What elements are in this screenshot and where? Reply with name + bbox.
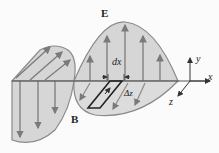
dz-label: Δz <box>124 89 133 98</box>
dx-label: dx <box>112 57 121 67</box>
axis-y-label: y <box>196 54 200 64</box>
wave-drawing <box>0 0 219 153</box>
em-wave-diagram: E B dx Δz y x z <box>0 0 219 153</box>
axis-x-label: x <box>208 72 212 82</box>
axis-z-label: z <box>169 97 173 107</box>
axes-triad <box>178 58 210 96</box>
e-field-lobe-left <box>12 81 74 142</box>
e-field-label: E <box>101 8 108 19</box>
b-field-label: B <box>71 114 78 125</box>
